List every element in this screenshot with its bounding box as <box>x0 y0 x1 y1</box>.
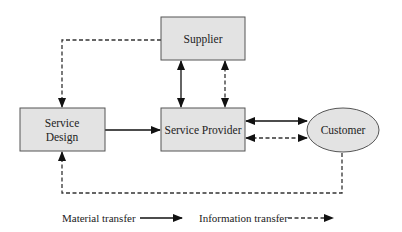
legend: Material transfer Information transfer <box>62 212 333 224</box>
legend-information-label: Information transfer <box>199 212 288 224</box>
service-design-label-line1: Service <box>45 117 79 129</box>
legend-material-label: Material transfer <box>62 212 136 224</box>
service-flow-diagram: Supplier Service Design Service Provider… <box>0 0 402 232</box>
node-service-design: Service Design <box>20 108 105 151</box>
edge-supplier-to-design-info <box>62 40 161 107</box>
node-supplier: Supplier <box>161 17 245 60</box>
service-design-label-line2: Design <box>46 131 79 144</box>
service-provider-label: Service Provider <box>165 124 242 136</box>
supplier-label: Supplier <box>184 33 223 46</box>
node-service-provider: Service Provider <box>161 108 245 151</box>
node-customer: Customer <box>307 108 379 152</box>
customer-label: Customer <box>321 124 366 136</box>
edge-customer-to-design-info <box>62 152 342 193</box>
